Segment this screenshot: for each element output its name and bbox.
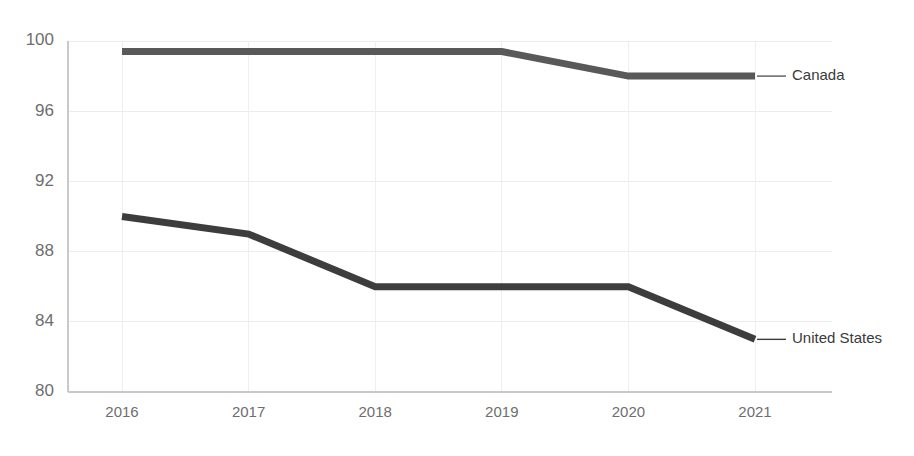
y-tick-label: 100: [26, 30, 54, 49]
x-tick-label: 2018: [359, 403, 392, 420]
line-chart: 100 96 92 88 84 80 2016 2017 2018 2019 2…: [0, 0, 914, 456]
vertical-gridlines: [122, 41, 755, 392]
x-tick-label: 2017: [232, 403, 265, 420]
y-tick-label: 80: [35, 381, 54, 400]
series-lines: [122, 52, 755, 340]
x-tick-label: 2019: [485, 403, 518, 420]
x-tick-label: 2020: [612, 403, 645, 420]
y-tick-label: 96: [35, 101, 54, 120]
y-tick-label: 92: [35, 171, 54, 190]
x-axis-tick-labels: 2016 2017 2018 2019 2020 2021: [105, 403, 771, 420]
series-label-canada: Canada: [792, 66, 845, 83]
series-line-united-states: [122, 217, 755, 340]
y-tick-label: 88: [35, 241, 54, 260]
chart-canvas: 100 96 92 88 84 80 2016 2017 2018 2019 2…: [0, 0, 914, 456]
series-line-canada: [122, 52, 755, 77]
horizontal-gridlines: [68, 41, 832, 322]
x-tick-label: 2021: [738, 403, 771, 420]
y-tick-label: 84: [35, 311, 54, 330]
series-label-united-states: United States: [792, 329, 882, 346]
series-legend-united-states: United States: [757, 329, 882, 346]
y-axis-tick-labels: 100 96 92 88 84 80: [26, 30, 54, 400]
x-tick-label: 2016: [105, 403, 138, 420]
series-legend-canada: Canada: [757, 66, 845, 83]
